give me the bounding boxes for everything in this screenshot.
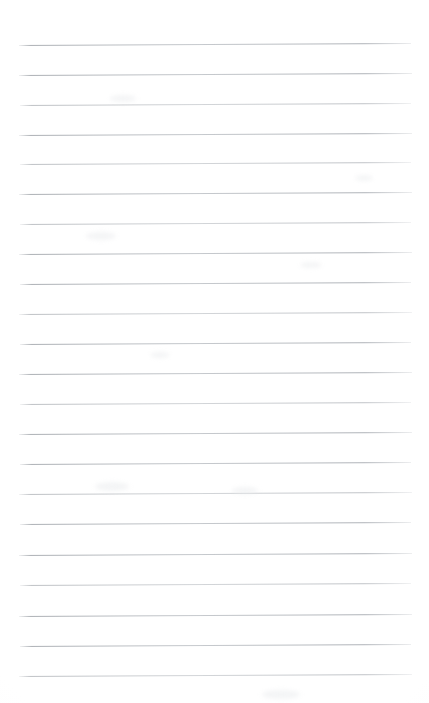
writing-area[interactable] <box>18 45 412 685</box>
notebook-page <box>0 0 429 703</box>
